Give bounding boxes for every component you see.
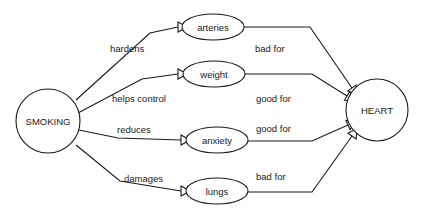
edge-line (76, 27, 178, 100)
edge-line (76, 145, 181, 191)
node-label-lungs: lungs (206, 186, 229, 197)
edge-weight-heart[interactable]: good for (245, 74, 357, 105)
edge-line (244, 27, 352, 88)
node-label-heart: HEART (361, 105, 393, 116)
edge-label-hardens: hardens (110, 43, 145, 54)
node-weight[interactable]: weight (183, 61, 245, 87)
node-arteries[interactable]: arteries (182, 14, 244, 40)
edge-label-helps-control: helps control (112, 93, 166, 104)
node-label-arteries: arteries (197, 22, 229, 33)
edge-label-good-for-anxiety: good for (256, 123, 291, 134)
edges-layer: hardens bad for helps control good for (76, 22, 361, 196)
node-lungs[interactable]: lungs (186, 178, 248, 204)
node-smoking[interactable]: SMOKING (16, 89, 80, 153)
edge-smoking-weight[interactable]: helps control (78, 69, 187, 113)
node-heart[interactable]: HEART (346, 79, 408, 141)
node-anxiety[interactable]: anxiety (186, 127, 248, 153)
edge-label-reduces: reduces (117, 124, 151, 135)
edge-smoking-anxiety[interactable]: reduces (79, 124, 190, 146)
edge-lungs-heart[interactable]: bad for (248, 126, 361, 192)
node-label-anxiety: anxiety (202, 135, 232, 146)
edge-anxiety-heart[interactable]: good for (248, 117, 358, 141)
node-label-weight: weight (199, 69, 228, 80)
edge-smoking-lungs[interactable]: damages (76, 145, 190, 196)
edge-label-damages: damages (124, 173, 163, 184)
edge-arteries-heart[interactable]: bad for (244, 27, 361, 98)
edge-label-bad-for-lungs: bad for (256, 171, 286, 182)
edge-line (248, 136, 352, 192)
causal-diagram: hardens bad for helps control good for (0, 0, 425, 216)
diagram-canvas: hardens bad for helps control good for (0, 0, 425, 216)
edge-smoking-arteries[interactable]: hardens (76, 22, 187, 100)
node-label-smoking: SMOKING (26, 116, 71, 127)
edge-label-good-for-weight: good for (256, 93, 291, 104)
nodes-layer: SMOKING arteries weight anxiety lungs HE (16, 14, 408, 204)
edge-label-bad-for-arteries: bad for (255, 43, 285, 54)
